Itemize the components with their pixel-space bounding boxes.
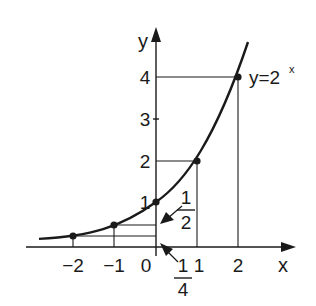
half-denominator: 2	[181, 212, 192, 233]
x-tick-label-neg2: −2	[62, 255, 84, 276]
y-tick-labels: 1 2 3 4	[140, 67, 151, 213]
quarter-numerator: 1	[178, 255, 189, 276]
point-1	[193, 157, 200, 164]
x-tick-labels: −2 −1 0 1 2	[62, 255, 243, 276]
x-tick-label-neg1: −1	[103, 255, 125, 276]
y-axis-arrow-icon	[151, 27, 161, 42]
arrow-half-icon	[160, 212, 174, 224]
fraction-quarter: 1 4	[174, 255, 192, 300]
y-tick-label-4: 4	[140, 67, 151, 88]
arrow-quarter	[160, 243, 178, 262]
x-tick-label-0: 0	[141, 255, 152, 276]
function-label-exponent: x	[289, 63, 295, 75]
point-0	[152, 198, 159, 205]
point-neg1	[110, 221, 117, 228]
x-tick-label-2: 2	[233, 255, 244, 276]
y-tick-label-1: 1	[140, 192, 151, 213]
point-neg2	[69, 232, 76, 239]
exponential-chart: 1 2 1 4 1 2 3 4 −2 −1 0 1 2 x y y=2 x	[0, 0, 316, 306]
y-tick-label-3: 3	[140, 109, 151, 130]
arrow-half	[160, 206, 182, 224]
fraction-half: 1 2	[177, 187, 195, 233]
x-axis-arrow-icon	[281, 242, 296, 252]
x-axis-label: x	[278, 254, 288, 276]
half-numerator: 1	[181, 187, 192, 208]
arrow-quarter-icon	[160, 243, 173, 256]
point-2	[234, 73, 241, 80]
y-axis-label: y	[138, 30, 148, 52]
y-tick-label-2: 2	[140, 151, 151, 172]
x-tick-label-1: 1	[194, 255, 205, 276]
function-label: y=2 x	[249, 63, 295, 88]
function-label-base: y=2	[249, 67, 280, 88]
quarter-denominator: 4	[178, 279, 189, 300]
